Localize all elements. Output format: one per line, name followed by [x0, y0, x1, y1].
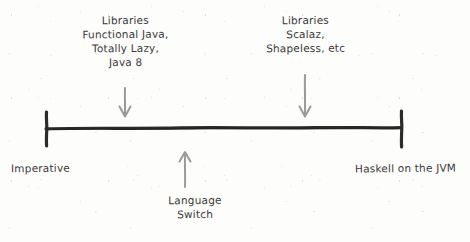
annotation-right-line-2: Scalaz,	[243, 26, 368, 41]
axis-line-texture	[50, 128, 399, 129]
annotation-left-libraries: Libraries Functional Java, Totally Lazy,…	[58, 12, 193, 69]
annotation-right-line-3: Shapeless, etc	[243, 40, 368, 55]
annotation-right-libraries: Libraries Scalaz, Shapeless, etc	[243, 12, 368, 55]
arrow-down-left-icon	[120, 88, 131, 117]
annotation-bottom-line-2: Switch	[155, 207, 235, 222]
diagram-canvas: Libraries Functional Java, Totally Lazy,…	[0, 0, 470, 242]
annotation-left-line-4: Java 8	[58, 54, 193, 69]
arrow-down-right-icon	[300, 75, 311, 117]
annotation-left-line-2: Functional Java,	[58, 26, 193, 41]
axis-label-left: Imperative	[11, 162, 70, 175]
arrow-up-bottom-icon	[180, 152, 191, 187]
annotation-left-line-1: Libraries	[58, 12, 193, 27]
annotation-left-line-3: Totally Lazy,	[58, 40, 193, 55]
axis-label-right: Haskell on the JVM	[355, 161, 456, 174]
annotation-language-switch: Language Switch	[155, 193, 235, 222]
axis-line	[46, 128, 401, 129]
annotation-bottom-line-1: Language	[155, 193, 235, 208]
annotation-right-line-1: Libraries	[243, 12, 368, 27]
